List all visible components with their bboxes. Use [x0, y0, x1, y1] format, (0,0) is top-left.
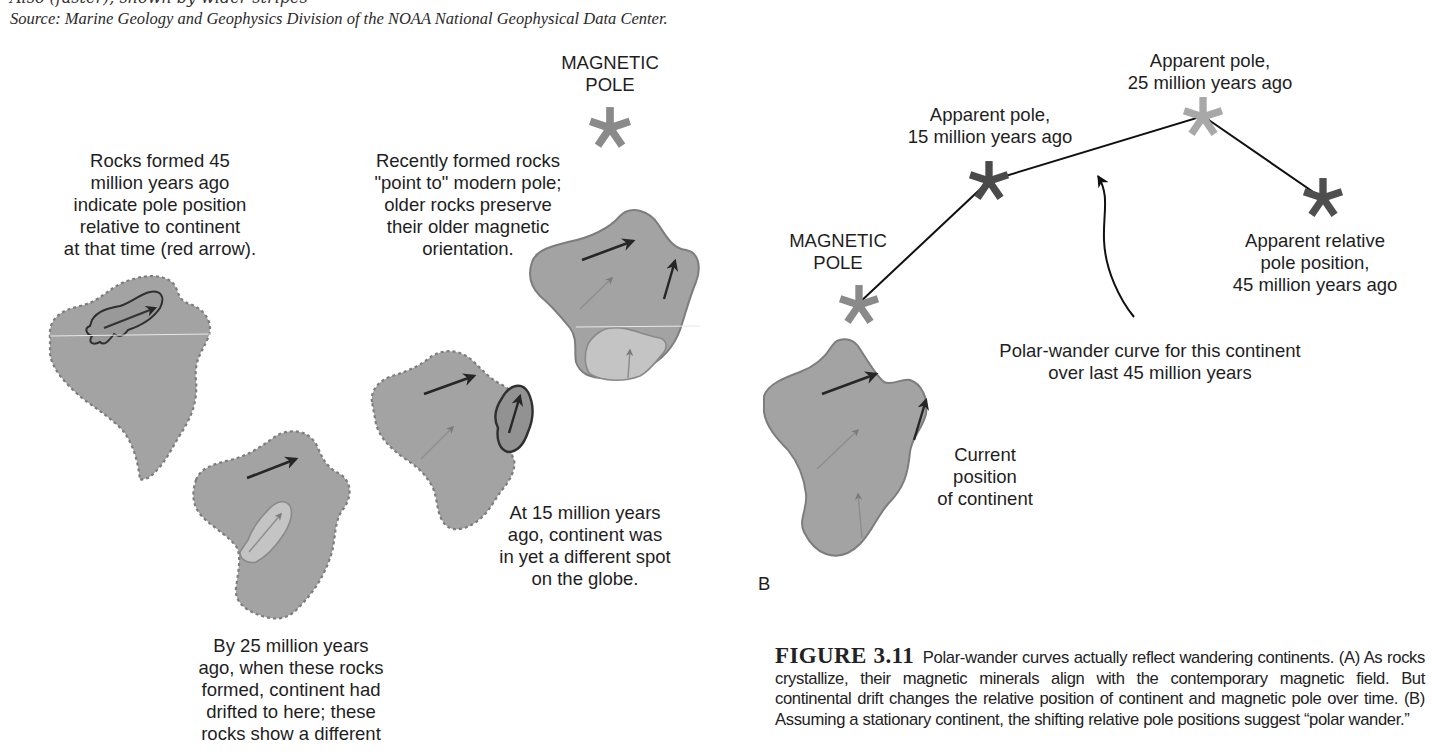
- label-15-million: At 15 million years ago, continent was i…: [480, 502, 690, 590]
- label-rocks-45-million: Rocks formed 45 million years ago indica…: [35, 150, 285, 260]
- continent-25-million-years: [193, 431, 349, 618]
- magnetic-pole-star-icon: [590, 107, 630, 146]
- label-apparent-pole-25: Apparent pole, 25 million years ago: [1100, 50, 1320, 94]
- label-current-position: Current position of continent: [920, 444, 1050, 510]
- continent-current-position: [764, 339, 926, 555]
- pole-25-million-star-icon: [1184, 97, 1222, 134]
- label-apparent-pole-15: Apparent pole, 15 million years ago: [880, 104, 1100, 148]
- label-polar-wander-curve: Polar-wander curve for this continent ov…: [960, 340, 1340, 384]
- magnetic-pole-label-b: MAGNETIC POLE: [778, 230, 898, 274]
- figure-number: FIGURE 3.11: [775, 643, 914, 668]
- label-25-million: By 25 million years ago, when these rock…: [180, 635, 402, 745]
- pole-45-million-star-icon: [1304, 178, 1342, 215]
- magnetic-pole-label-a: MAGNETIC POLE: [540, 52, 680, 96]
- figure-caption: FIGURE 3.11 Polar-wander curves actually…: [775, 646, 1425, 730]
- label-recent-rocks: Recently formed rocks "point to" modern …: [358, 150, 578, 260]
- panel-letter-b: B: [758, 573, 778, 595]
- label-apparent-pole-45: Apparent relative pole position, 45 mill…: [1210, 230, 1420, 296]
- continent-45-million-years: [50, 276, 210, 480]
